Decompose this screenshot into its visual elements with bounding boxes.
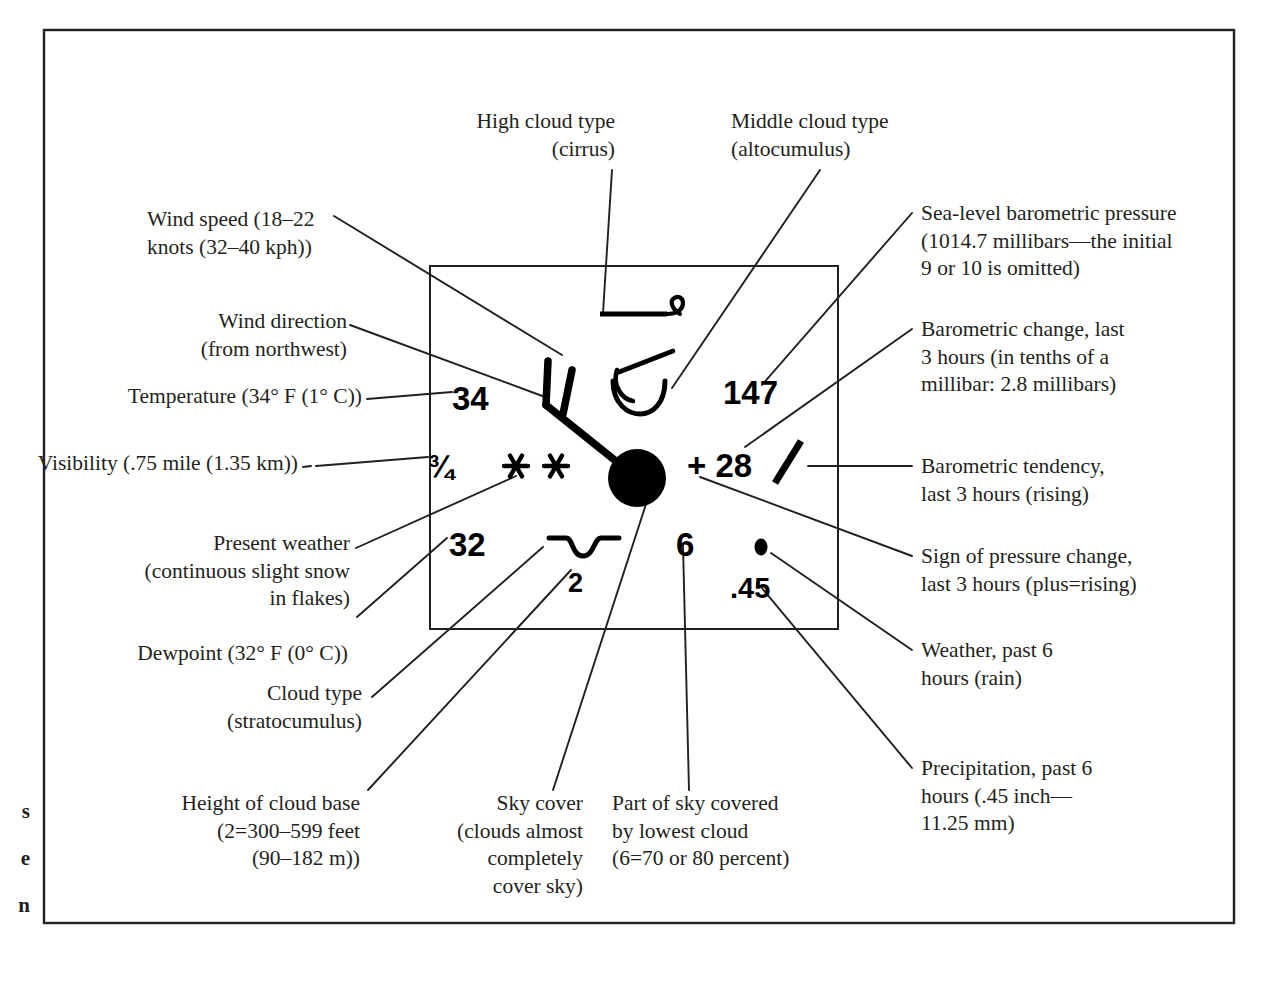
leader-cloud-type [372,547,543,697]
figure-page: s e n [0,0,1267,988]
callout-high-cloud: High cloud type (cirrus) [400,108,615,163]
value-precipitation: .45 [730,572,770,604]
value-pressure: 147 [723,374,778,411]
callout-dewpoint: Dewpoint (32° F (0° C)) [60,640,348,668]
callout-sky-cover: Sky cover (clouds almost completely cove… [443,790,583,900]
callout-sea-level-pressure: Sea-level barometric pressure (1014.7 mi… [921,200,1221,283]
cirrus-icon [600,297,683,314]
leader-wind-direction [350,325,545,397]
leader-sign-of-change [700,477,912,556]
callout-barometric-tendency: Barometric tendency, last 3 hours (risin… [921,453,1201,508]
callout-middle-cloud: Middle cloud type (altocumulus) [731,108,981,163]
value-pressure-change: + 28 [687,447,752,484]
leader-present-weather [356,476,516,548]
leader-temperature [367,392,452,399]
value-cloud-base-height: 2 [568,568,583,598]
stratocumulus-icon [549,538,619,556]
callout-visibility: Visibility (.75 mile (1.35 km)) [28,450,298,478]
callout-present-weather: Present weather (continuous slight snow … [78,530,350,613]
leader-wind-speed [334,216,562,355]
leader-visibility-tick [303,466,311,467]
callout-barometric-change: Barometric change, last 3 hours (in tent… [921,316,1201,399]
sky-cover-icon [608,449,666,507]
pressure-tendency-icon [775,441,801,483]
snow-asterisk-icon [504,456,568,477]
leader-sky-cover [553,498,648,790]
callout-precipitation: Precipitation, past 6 hours (.45 inch— 1… [921,755,1181,838]
station-model-box [430,266,838,629]
station-model-symbols [504,297,801,556]
rain-dot-icon [755,539,768,556]
callout-temperature: Temperature (34° F (1° C)) [60,383,362,411]
callout-part-of-sky: Part of sky covered by lowest cloud (6=7… [612,790,862,873]
leader-cloud-base [368,570,571,790]
leader-part-of-sky [683,545,689,790]
value-low-cloud-amount: 6 [676,526,694,563]
callout-cloud-base: Height of cloud base (2=300–599 feet (90… [110,790,360,873]
station-model-values: 34 ¾ 32 2 147 + 28 6 .45 [428,374,778,604]
leader-middle-cloud [672,170,820,388]
altocumulus-icon [613,351,673,414]
leader-high-cloud [603,170,612,313]
leader-precipitation [761,587,912,768]
leader-lines [303,170,912,790]
leader-visibility [316,457,428,466]
callout-wind-direction: Wind direction (from northwest) [115,308,347,363]
value-dewpoint: 32 [449,526,486,563]
leader-dewpoint [357,538,447,617]
leader-past-weather [771,553,912,650]
callout-wind-speed: Wind speed (18–22 knots (32–40 kph)) [147,206,347,261]
value-temperature: 34 [452,380,489,417]
value-visibility: ¾ [428,449,456,484]
callout-cloud-type: Cloud type (stratocumulus) [130,680,362,735]
callout-sign-of-change: Sign of pressure change, last 3 hours (p… [921,543,1211,598]
callout-past-weather: Weather, past 6 hours (rain) [921,637,1171,692]
